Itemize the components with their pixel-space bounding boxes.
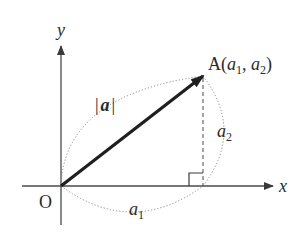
component-x-label: a1 xyxy=(129,199,144,222)
y-axis-label: y xyxy=(55,20,65,40)
origin-label: O xyxy=(39,192,52,212)
point-a-label: A(a1, a2) xyxy=(208,54,272,77)
vector-a xyxy=(61,76,203,186)
vector-diagram: y x O A(a1, a2) |a| a2 a1 xyxy=(0,0,305,239)
vector-magnitude-label: |a| xyxy=(95,95,115,115)
right-angle-marker xyxy=(189,173,203,186)
component-y-label: a2 xyxy=(217,121,232,144)
x-axis-label: x xyxy=(278,176,287,196)
